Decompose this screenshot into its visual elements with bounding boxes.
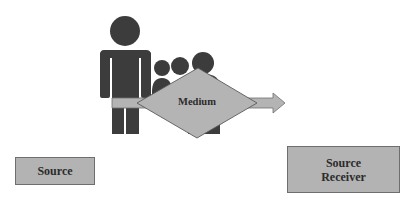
- person-icon: [100, 16, 151, 134]
- diagram-canvas: Medium Source Source Receiver: [0, 0, 420, 203]
- source-receiver-box: Source Receiver: [287, 146, 400, 193]
- source-box: Source: [15, 157, 95, 185]
- receiver-label-line2: Receiver: [321, 170, 366, 184]
- medium-label: Medium: [167, 96, 227, 107]
- source-label: Source: [37, 164, 72, 178]
- receiver-label-line1: Source: [326, 156, 361, 170]
